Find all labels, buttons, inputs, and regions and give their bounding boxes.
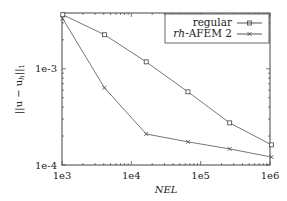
x-tick-label: 1e3 — [53, 170, 72, 181]
square-marker-icon — [228, 121, 232, 125]
x-tick-label: 1e4 — [122, 170, 141, 181]
x-tick-label: 1e6 — [261, 170, 280, 181]
square-marker-icon — [269, 143, 273, 147]
cross-marker-icon — [102, 86, 106, 90]
legend: regular rh-AFEM 2 — [165, 14, 269, 43]
square-marker-icon — [61, 13, 65, 17]
square-marker-icon — [186, 90, 190, 94]
y-tick-label: 1e-3 — [35, 63, 57, 74]
cross-marker-icon — [61, 17, 65, 21]
convergence-chart: 1e31e41e51e61e-31e-4 ||u − uh||1 NEL reg… — [0, 0, 287, 201]
square-marker-icon — [144, 60, 148, 64]
x-axis-label: NEL — [154, 184, 178, 195]
y-tick-label: 1e-4 — [35, 160, 57, 171]
x-tick-label: 1e5 — [191, 170, 210, 181]
y-axis-label: ||u − uh||1 — [13, 64, 26, 114]
square-marker-icon — [102, 33, 106, 37]
legend-label-rh-afem: rh-AFEM 2 — [173, 27, 232, 39]
